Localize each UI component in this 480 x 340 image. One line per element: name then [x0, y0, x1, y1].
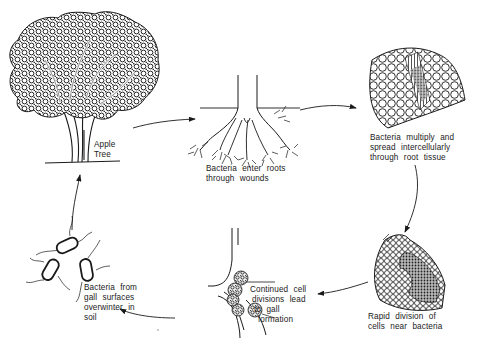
cell-division-illustration [375, 234, 445, 310]
arrow-soil-to-tree [72, 175, 80, 230]
arrow-tissue-to-division [405, 165, 418, 232]
label-apple-tree: Apple Tree [94, 140, 115, 160]
arrow-division-to-gall [318, 282, 368, 294]
label-rapid-division: Rapid division of cells near bacteria [368, 312, 442, 332]
arrow-roots-to-tissue [300, 106, 356, 110]
label-enter-roots: Bacteria enter roots through wounds [206, 164, 285, 184]
label-gall-formation: Continued cell divisions lead to gall fo… [250, 285, 306, 325]
label-overwinter: Bacteria from gall surfaces overwinter i… [84, 283, 137, 323]
root-tissue-illustration [370, 48, 465, 128]
crown-gall-disease-cycle-diagram: Apple Tree Bacteria enter roots through … [0, 0, 480, 340]
arrow-tree-to-roots [133, 119, 195, 128]
roots-illustration [188, 75, 300, 168]
apple-tree-illustration [10, 12, 159, 163]
label-multiply-spread: Bacteria multiply and spread intercellul… [370, 133, 454, 163]
